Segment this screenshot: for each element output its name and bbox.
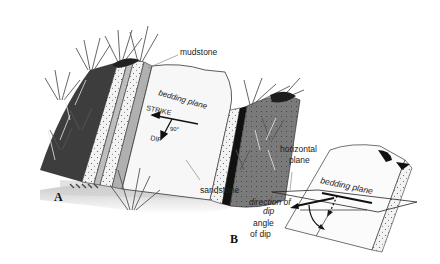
- panel-label-a: A: [54, 190, 63, 204]
- label-of-dip: of dip: [250, 229, 271, 239]
- label-mudstone: mudstone: [180, 47, 218, 57]
- panel-label-b: B: [230, 232, 238, 246]
- label-dip-b: dip: [263, 206, 275, 216]
- label-sandstone: sandstone: [200, 185, 239, 195]
- horizontal-plane-leader: [290, 172, 292, 190]
- panel-a: mudstone bedding plane STRIKE 90° DIP sa…: [40, 26, 304, 214]
- label-angle: angle: [253, 218, 274, 228]
- label-horizontal: horizontal: [280, 144, 317, 154]
- direction-of-dip-arrowhead: [290, 203, 299, 209]
- label-plane: plane: [289, 155, 310, 165]
- strike-dip-diagram: mudstone bedding plane STRIKE 90° DIP sa…: [0, 0, 440, 264]
- label-angle-90: 90°: [170, 126, 180, 132]
